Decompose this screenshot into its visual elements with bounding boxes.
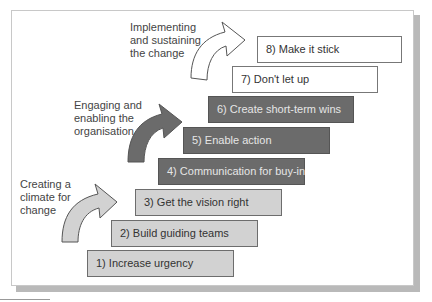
step-3-get-vision-right: 3) Get the vision right (135, 189, 282, 216)
step-6-create-short-term-wins: 6) Create short-term wins (208, 96, 354, 123)
step-2-build-guiding-teams: 2) Build guiding teams (111, 220, 258, 247)
step-4-communication-for-buy-in: 4) Communication for buy-in (158, 158, 305, 185)
step-7-dont-let-up: 7) Don't let up (232, 66, 378, 93)
decorative-rule (0, 299, 50, 300)
step-5-enable-action: 5) Enable action (183, 127, 330, 154)
step-1-increase-urgency: 1) Increase urgency (87, 250, 234, 277)
step-8-make-it-stick: 8) Make it stick (257, 36, 402, 63)
curved-arrow-icon (126, 102, 184, 164)
